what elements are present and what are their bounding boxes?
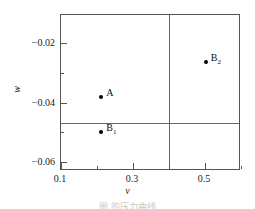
scatter-plot-figure: AB1B2 w v 图 的压力曲线 0.10.30.5−0.02−0.04−0.… bbox=[0, 0, 255, 209]
y-axis-tick bbox=[61, 103, 67, 104]
x-axis-tick bbox=[205, 163, 206, 169]
data-point-label-a: A bbox=[106, 88, 113, 98]
horizontal-reference bbox=[61, 123, 239, 124]
y-axis-tick bbox=[61, 43, 67, 44]
y-axis-tick bbox=[61, 132, 64, 133]
x-axis-tick bbox=[169, 166, 170, 169]
y-axis-label: w bbox=[11, 80, 22, 100]
plot-frame: AB1B2 bbox=[60, 14, 240, 170]
data-point-label-b2: B2 bbox=[211, 53, 221, 66]
x-axis-tick bbox=[241, 166, 242, 169]
y-axis-tick-label: −0.06 bbox=[21, 156, 55, 167]
y-axis-tick bbox=[61, 162, 67, 163]
figure-caption: 图 的压力曲线 bbox=[0, 200, 255, 209]
data-point-b1 bbox=[99, 130, 103, 134]
vertical-reference bbox=[169, 15, 170, 169]
x-axis-tick bbox=[61, 163, 62, 169]
x-axis-tick bbox=[97, 166, 98, 169]
data-point-a bbox=[99, 95, 103, 99]
x-axis-tick-label: 0.5 bbox=[184, 173, 224, 184]
x-axis-tick bbox=[133, 163, 134, 169]
y-axis-tick bbox=[61, 73, 64, 74]
y-axis-tick-label: −0.02 bbox=[21, 37, 55, 48]
x-axis-label: v bbox=[0, 185, 255, 196]
x-axis-tick-label: 0.3 bbox=[112, 173, 152, 184]
x-axis-tick-label: 0.1 bbox=[40, 173, 80, 184]
data-point-b2 bbox=[204, 60, 208, 64]
y-axis-tick-label: −0.04 bbox=[21, 97, 55, 108]
data-point-label-b1: B1 bbox=[106, 123, 116, 136]
